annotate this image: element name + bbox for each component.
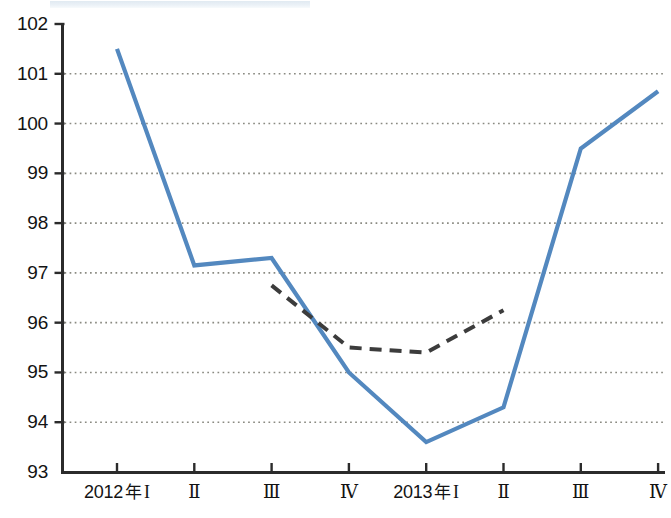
y-axis-labels: 93949596979899100101102 — [0, 0, 48, 518]
x-axis-label-4: 2013年I — [393, 481, 459, 504]
y-axis-label-93: 93 — [4, 462, 48, 481]
y-axis-label-100: 100 — [4, 114, 48, 133]
x-label-quarter-2: Ⅲ — [263, 482, 280, 502]
x-axis-label-1: Ⅱ — [188, 481, 200, 503]
series-line-solid-blue-series — [117, 49, 658, 442]
x-label-quarter-4: I — [453, 482, 459, 502]
x-axis-label-5: Ⅱ — [497, 481, 509, 503]
x-label-year-4: 2013 — [393, 482, 432, 502]
x-label-year-0: 2012 — [84, 482, 123, 502]
y-axis-label-99: 99 — [4, 163, 48, 182]
x-label-quarter-6: Ⅲ — [572, 482, 589, 502]
y-axis-label-96: 96 — [4, 313, 48, 332]
x-label-nen-4: 年 — [432, 483, 453, 502]
plot-area — [0, 0, 671, 518]
y-axis-label-97: 97 — [4, 263, 48, 282]
x-axis-labels: 2012年IⅡⅢⅣ2013年IⅡⅢⅣ — [0, 481, 671, 513]
x-axis-label-6: Ⅲ — [572, 481, 589, 503]
x-label-quarter-1: Ⅱ — [188, 482, 200, 502]
x-label-quarter-0: I — [144, 482, 150, 502]
x-label-quarter-3: Ⅳ — [340, 482, 358, 502]
series-line-dashed-dark-series — [272, 285, 504, 352]
y-axis-label-102: 102 — [4, 14, 48, 33]
data-series-group — [117, 49, 658, 442]
x-axis-label-3: Ⅳ — [340, 481, 358, 503]
x-label-nen-0: 年 — [123, 483, 144, 502]
x-label-quarter-7: Ⅳ — [649, 482, 667, 502]
x-axis-label-7: Ⅳ — [649, 481, 667, 503]
y-axis-label-98: 98 — [4, 213, 48, 232]
y-axis-label-101: 101 — [4, 64, 48, 83]
quarterly-index-line-chart: 93949596979899100101102 2012年IⅡⅢⅣ2013年IⅡ… — [0, 0, 671, 518]
y-axis-label-95: 95 — [4, 362, 48, 381]
x-axis-label-0: 2012年I — [84, 481, 150, 504]
y-axis-label-94: 94 — [4, 412, 48, 431]
gridlines-group — [65, 74, 666, 422]
x-axis-label-2: Ⅲ — [263, 481, 280, 503]
x-label-quarter-5: Ⅱ — [497, 482, 509, 502]
